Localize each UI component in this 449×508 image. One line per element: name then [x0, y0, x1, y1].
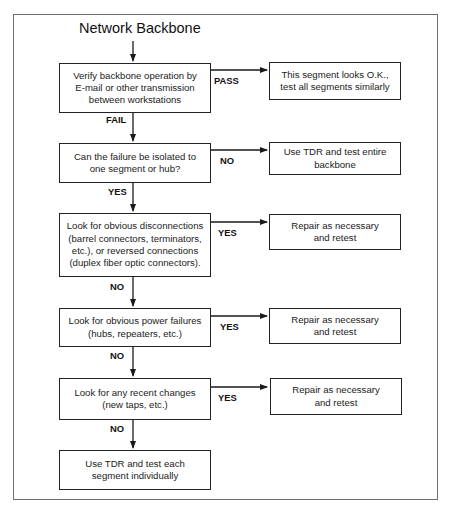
step-text-line: one segment or hub?	[74, 163, 196, 175]
down-label-no: NO	[110, 423, 124, 434]
outcome-text-line: Repair as necessary	[292, 384, 379, 396]
branch-label-yes: YES	[220, 321, 239, 332]
step-text-line: E-mail or other transmission	[73, 82, 197, 94]
step-power-box: Look for obvious power failures (hubs, r…	[59, 308, 211, 347]
outcome-text-line: and retest	[291, 232, 378, 244]
step-verify-box: Verify backbone operation by E-mail or o…	[59, 63, 211, 113]
step-isolate-box: Can the failure be isolated to one segme…	[59, 143, 211, 183]
step-text-line: Use TDR and test each	[85, 458, 185, 470]
branch-label-yes: YES	[218, 392, 237, 403]
down-label-no: NO	[110, 350, 124, 361]
step-disconnections-box: Look for obvious disconnections (barrel …	[59, 213, 211, 277]
outcome-changes-box: Repair as necessary and retest	[270, 378, 402, 415]
step-text-line: between workstations	[73, 94, 197, 106]
step-text-line: Can the failure be isolated to	[74, 151, 196, 163]
step-text-line: segment individually	[85, 470, 185, 482]
step-text-line: Look for obvious power failures	[69, 315, 202, 327]
outcome-text-line: Repair as necessary	[291, 314, 378, 326]
outcome-text-line: backbone	[284, 159, 387, 171]
down-label-no: NO	[110, 281, 124, 292]
branch-label-yes: YES	[218, 227, 237, 238]
step-text-line: etc.), or reversed connections	[67, 245, 204, 257]
outcome-isolate-box: Use TDR and test entire backbone	[269, 142, 401, 175]
branch-label-no: NO	[220, 155, 234, 166]
step-changes-box: Look for any recent changes (new taps, e…	[59, 378, 211, 420]
outcome-text-line: Repair as necessary	[291, 220, 378, 232]
outcome-text-line: Use TDR and test entire	[284, 146, 387, 158]
step-text-line: (hubs, repeaters, etc.)	[69, 328, 202, 340]
down-label-yes: YES	[108, 186, 127, 197]
step-text-line: Look for obvious disconnections	[67, 220, 204, 232]
outcome-verify-box: This segment looks O.K., test all segmen…	[269, 62, 401, 100]
step-text-line: Look for any recent changes	[74, 387, 195, 399]
outcome-text-line: and retest	[291, 326, 378, 338]
outcome-text-line: test all segments similarly	[280, 81, 389, 93]
step-text-line: (duplex fiber optic connectors).	[67, 257, 204, 269]
outcome-text-line: and retest	[292, 397, 379, 409]
step-text-line: (new taps, etc.)	[74, 399, 195, 411]
outcome-text-line: This segment looks O.K.,	[280, 69, 389, 81]
down-label-fail: FAIL	[106, 114, 126, 125]
outcome-power-box: Repair as necessary and retest	[269, 308, 401, 344]
step-final-box: Use TDR and test each segment individual…	[59, 450, 211, 490]
step-text-line: (barrel connectors, terminators,	[67, 233, 204, 245]
branch-label-pass: PASS	[214, 75, 239, 86]
outcome-disconnections-box: Repair as necessary and retest	[269, 214, 401, 250]
step-text-line: Verify backbone operation by	[73, 70, 197, 82]
